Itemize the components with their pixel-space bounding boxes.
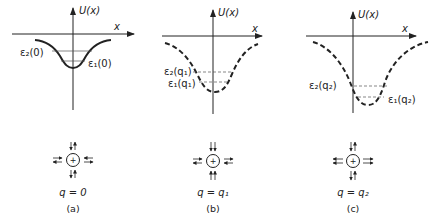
y-axis-label: U(x) xyxy=(79,5,100,16)
charge-diagram-c: + q = q₂ (c) xyxy=(333,142,373,214)
level-label-e1: ε₁(q₂) xyxy=(388,94,416,105)
y-axis-label: U(x) xyxy=(218,7,239,18)
panel-caption: (a) xyxy=(66,203,79,214)
panel-caption: (c) xyxy=(347,203,360,214)
charge-diagram-b: + q = q₁ (b) xyxy=(193,142,233,214)
potential-plot-a: U(x) x ε₂(0) ε₁(0) xyxy=(12,5,134,110)
level-label-e2: ε₂(q₂) xyxy=(309,80,337,91)
x-axis-label: x xyxy=(251,23,258,34)
plus-icon: + xyxy=(210,157,217,166)
plus-icon: + xyxy=(350,157,357,166)
q-label: q = 0 xyxy=(59,187,86,198)
level-label-e2: ε₂(0) xyxy=(20,47,44,58)
panel-a: U(x) x ε₂(0) ε₁(0) + q = 0 (a) xyxy=(12,5,134,214)
x-axis-label: x xyxy=(113,21,120,32)
y-axis-label: U(x) xyxy=(358,9,379,20)
q-label: q = q₁ xyxy=(197,187,228,198)
level-label-e1: ε₁(0) xyxy=(88,58,112,69)
q-label: q = q₂ xyxy=(337,187,368,198)
charge-diagram-a: + q = 0 (a) xyxy=(53,142,93,214)
panel-caption: (b) xyxy=(206,203,219,214)
level-label-e2: ε₂(q₁) xyxy=(164,66,192,77)
level-label-e1: ε₁(q₁) xyxy=(168,78,196,89)
x-axis-label: x xyxy=(401,23,408,34)
potential-well-diagram: U(x) x ε₂(0) ε₁(0) + q = 0 (a) xyxy=(0,0,436,224)
plus-icon: + xyxy=(70,156,77,165)
potential-plot-c: U(x) x ε₂(q₂) ε₁(q₂) xyxy=(306,9,428,113)
potential-plot-b: U(x) x ε₂(q₁) ε₁(q₁) xyxy=(162,7,262,114)
panel-c: U(x) x ε₂(q₂) ε₁(q₂) + q = q₂ (c) xyxy=(306,9,428,214)
panel-b: U(x) x ε₂(q₁) ε₁(q₁) + q = q₁ (b) xyxy=(162,7,262,214)
